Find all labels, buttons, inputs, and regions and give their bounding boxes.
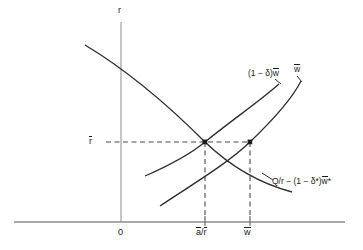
curve-label-wbar: w xyxy=(294,64,300,74)
origin-label: 0 xyxy=(118,228,123,237)
curve-label-q-over-r: Q/r − (1 − δ*)w* xyxy=(272,176,331,186)
equilibrium-point-right xyxy=(248,140,253,145)
equilibrium-point-left xyxy=(203,140,208,145)
y-tick-label-rbar: r xyxy=(89,136,92,146)
plot-canvas xyxy=(0,0,363,250)
curve-wbar xyxy=(160,81,301,206)
curve-label-one-minus-delta-w: (1 − δ)w xyxy=(248,68,279,78)
x-tick-label-wbar: w xyxy=(244,227,251,237)
curve-one-minus-delta-w xyxy=(145,84,279,176)
economics-figure: r r 0 a/r w (1 − δ)w w Q/r − (1 − δ*)w* xyxy=(0,0,363,250)
leader-line-one-minus-delta-w xyxy=(275,79,281,84)
leader-line-wbar xyxy=(297,76,302,82)
x-tick-label-abar-over-rbar: a/r xyxy=(196,227,207,237)
y-axis-label: r xyxy=(118,6,121,15)
